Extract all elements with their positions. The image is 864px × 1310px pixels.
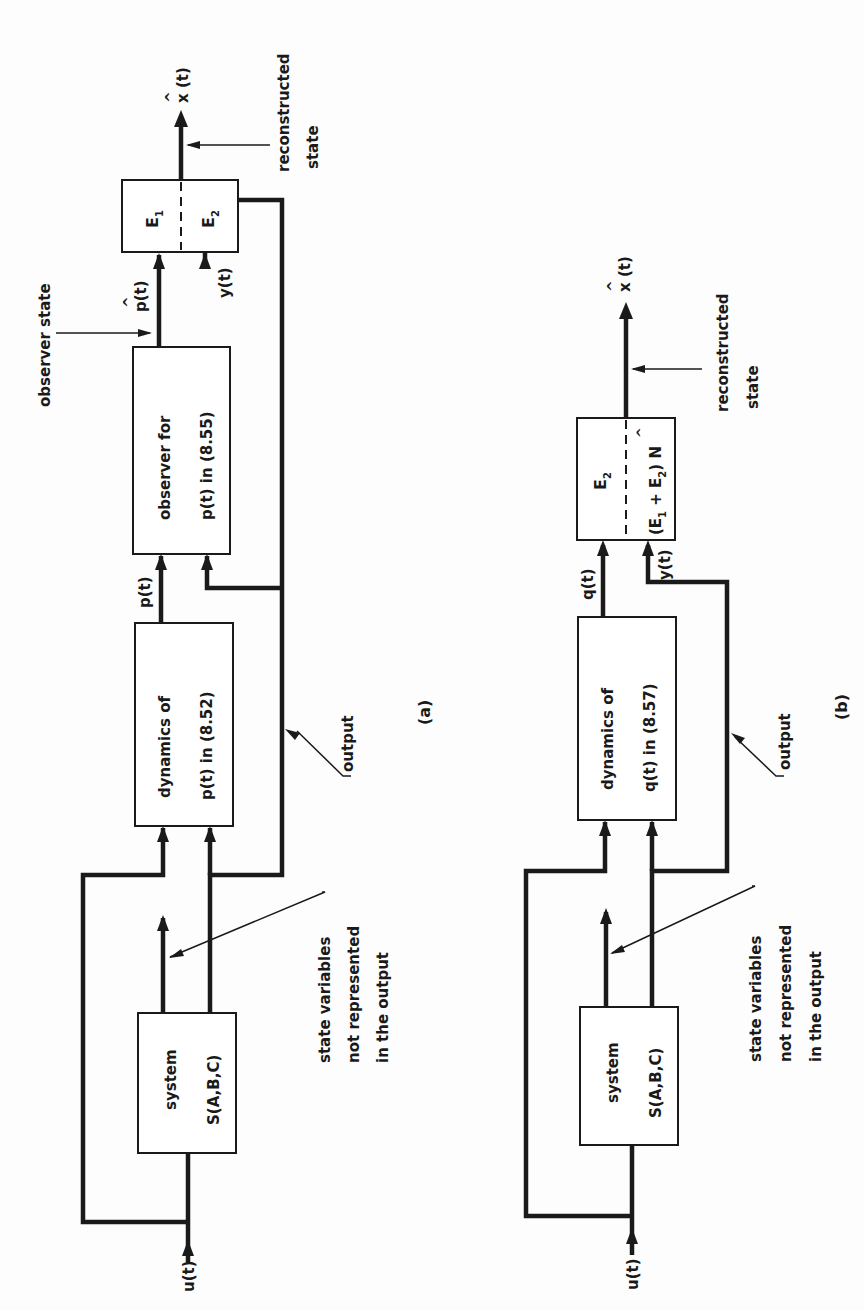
- block-diagram-svg: u(t) system S(A,B,C) dynamics of p(t) in…: [0, 0, 864, 1310]
- dynamics-box-b-line2: q(t) in (8.57): [641, 683, 659, 792]
- p-hat-accent: ^: [121, 296, 137, 308]
- state-variables-b-line1: state variables: [747, 936, 765, 1062]
- arrowhead-icon: [731, 733, 745, 744]
- dynamics-box-b-line1: dynamics of: [599, 688, 617, 790]
- figure-canvas: u(t) system S(A,B,C) dynamics of p(t) in…: [0, 0, 864, 1310]
- arrowhead-icon: [157, 826, 169, 842]
- dynamics-box-b: [578, 617, 676, 820]
- y-signal-label-a: y(t): [216, 267, 234, 298]
- arrowhead-icon: [599, 820, 611, 836]
- arrowhead-icon: [631, 365, 645, 373]
- output-to-observer-a: [207, 556, 282, 588]
- state-variables-b-line3: in the output: [807, 951, 825, 1062]
- e-box-b-accent: ^: [634, 427, 649, 438]
- arrowhead-icon: [199, 253, 211, 269]
- arrowhead-icon: [186, 141, 200, 149]
- input-label-b: u(t): [624, 1258, 642, 1290]
- caption-b: (b): [832, 694, 851, 720]
- state-variables-pointer-b: [612, 886, 755, 953]
- state-variables-a-line3: in the output: [374, 952, 392, 1063]
- system-box-b-line2: S(A,B,C): [647, 1048, 665, 1118]
- arrowhead-icon: [610, 945, 625, 954]
- x-hat-accent-a: ^: [163, 91, 179, 103]
- arrowhead-icon: [169, 949, 184, 958]
- arrowhead-icon: [597, 540, 609, 556]
- arrowhead-icon: [646, 820, 658, 836]
- input-label-a: u(t): [180, 1260, 198, 1292]
- q-signal-label: q(t): [579, 568, 597, 600]
- y-signal-label-b: y(t): [656, 549, 674, 580]
- arrowhead-icon: [600, 908, 612, 924]
- state-variables-a-line2: not represented: [345, 926, 363, 1063]
- arrowhead-icon: [157, 915, 169, 931]
- reconstructed-state-b-line1: reconstructed: [714, 293, 732, 412]
- reconstructed-state-b-line2: state: [744, 365, 762, 409]
- arrowhead-icon: [619, 302, 633, 319]
- output-annotation-a: output: [339, 715, 357, 772]
- system-box-b-line1: system: [604, 1042, 622, 1103]
- reconstructed-state-a-line2: state: [304, 125, 322, 169]
- dynamics-box-a-line1: dynamics of: [156, 696, 174, 798]
- arrowhead-icon: [204, 826, 216, 842]
- arrowhead-icon: [626, 1228, 638, 1244]
- arrowhead-icon: [174, 110, 188, 127]
- arrowhead-icon: [182, 1240, 194, 1256]
- diagram-b: u(t) system S(A,B,C) dynamics of q(t) in…: [526, 256, 851, 1290]
- dynamics-box-a: [135, 623, 233, 826]
- x-hat-accent-b: ^: [605, 280, 621, 292]
- arrowhead-icon: [155, 554, 167, 570]
- arrowhead-icon: [138, 329, 152, 337]
- state-variables-a-line1: state variables: [316, 937, 334, 1063]
- observer-box-a-line2: p(t) in (8.55): [198, 411, 216, 520]
- observer-box-a-line1: observer for: [156, 415, 174, 520]
- p-signal-label: p(t): [136, 576, 154, 608]
- arrowhead-icon: [201, 554, 213, 570]
- arrowhead-icon: [285, 729, 300, 740]
- output-annotation-b: output: [776, 713, 794, 770]
- state-variables-pointer-a: [170, 892, 325, 957]
- diagram-a: u(t) system S(A,B,C) dynamics of p(t) in…: [36, 53, 434, 1292]
- state-variables-b-line2: not represented: [777, 925, 795, 1062]
- arrowhead-icon: [642, 540, 654, 556]
- dynamics-box-a-line2: p(t) in (8.52): [198, 691, 216, 800]
- e-box-b-bottom: (E1 + E2) N: [647, 446, 668, 535]
- observer-state-annotation: observer state: [36, 283, 54, 407]
- arrowhead-icon: [153, 253, 165, 269]
- output-line-a: [205, 200, 282, 1013]
- system-box-a-line1: system: [162, 1049, 180, 1110]
- system-box-a-line2: S(A,B,C): [205, 1055, 223, 1125]
- caption-a: (a): [415, 700, 434, 725]
- reconstructed-state-a-line1: reconstructed: [275, 53, 293, 172]
